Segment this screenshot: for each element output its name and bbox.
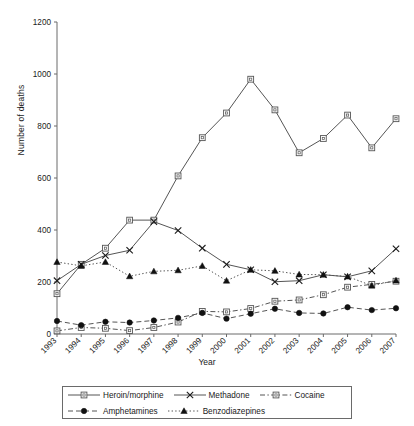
data-point-marker (199, 263, 205, 269)
data-point-marker (102, 259, 108, 265)
chart-legend: Heroin/morphineMethadoneCocaine Amphetam… (62, 386, 352, 419)
series-line (57, 222, 396, 282)
x-tick-label: 1993 (39, 336, 59, 356)
data-point-marker (296, 297, 302, 303)
legend-row-1: Heroin/morphineMethadoneCocaine (63, 387, 351, 403)
x-tick-label: 2003 (281, 336, 301, 356)
data-point-marker (273, 392, 279, 398)
data-point-marker (224, 110, 230, 116)
x-tick-label: 2006 (354, 336, 374, 356)
data-point-marker (272, 298, 278, 304)
x-axis-title-text: Year (198, 357, 215, 367)
data-point-marker (127, 328, 133, 334)
data-point-marker (175, 315, 180, 320)
data-point-marker (127, 320, 132, 325)
legend-swatch (173, 389, 207, 401)
x-tick-label: 1997 (136, 336, 156, 356)
data-point-marker (81, 408, 86, 413)
legend-swatch (167, 405, 201, 417)
data-point-marker (272, 107, 278, 113)
data-point-marker (200, 310, 205, 315)
data-point-marker (54, 259, 60, 265)
data-point-marker (272, 306, 277, 311)
data-point-marker (248, 76, 254, 82)
data-point-marker (103, 325, 109, 331)
x-tick-label: 1994 (63, 336, 83, 356)
y-tick-label: 1000 (33, 70, 52, 79)
legend-swatch (67, 405, 101, 417)
x-tick-label: 2004 (306, 336, 326, 356)
x-tick-label: 2000 (209, 336, 229, 356)
series-amphetamines (54, 305, 398, 328)
data-point-marker (54, 291, 60, 297)
data-point-marker (345, 305, 350, 310)
data-point-marker (369, 145, 375, 151)
data-point-marker (248, 311, 253, 316)
y-tick-label: 600 (37, 174, 51, 183)
data-point-marker (175, 173, 181, 179)
data-point-marker (345, 284, 351, 290)
data-point-marker (103, 319, 108, 324)
data-point-marker (103, 245, 109, 251)
legend-item-label: Benzodiazepines (203, 407, 265, 416)
data-point-marker (393, 306, 398, 311)
legend-item-label: Cocaine (295, 391, 325, 400)
data-point-marker (79, 322, 84, 327)
data-point-marker (127, 217, 133, 223)
data-point-marker (224, 309, 230, 315)
data-point-marker (345, 112, 351, 118)
data-point-marker (151, 318, 156, 323)
data-point-marker (151, 268, 157, 274)
data-point-marker (393, 116, 399, 122)
legend-row-2: AmphetaminesBenzodiazepines (63, 403, 351, 419)
legend-item-benzodiazepines[interactable]: Benzodiazepines (167, 405, 265, 417)
legend-swatch (259, 389, 293, 401)
x-tick-label: 2002 (257, 336, 277, 356)
x-axis-title: Year (0, 357, 414, 367)
x-tick-label: 1995 (88, 336, 108, 356)
data-point-marker (199, 135, 205, 141)
series-benzodiazepines (54, 259, 399, 288)
data-point-marker (223, 278, 229, 284)
data-point-marker (151, 325, 157, 331)
data-point-marker (54, 328, 60, 334)
x-tick-label: 2001 (233, 336, 253, 356)
data-point-marker (321, 311, 326, 316)
data-point-marker (175, 267, 181, 273)
x-tick-label: 1996 (112, 336, 132, 356)
y-tick-label: 800 (37, 122, 51, 131)
data-point-marker (224, 316, 229, 321)
data-point-marker (320, 292, 326, 298)
legend-item-heroin-morphine[interactable]: Heroin/morphine (67, 389, 164, 401)
legend-item-amphetamines[interactable]: Amphetamines (67, 405, 158, 417)
y-tick-label: 200 (37, 278, 51, 287)
x-tick-label: 2007 (378, 336, 398, 356)
data-point-marker (296, 150, 302, 156)
chart-figure: Number of deaths 02004006008001000120019… (0, 0, 414, 426)
legend-item-label: Methadone (209, 391, 250, 400)
y-tick-label: 1200 (33, 18, 52, 27)
x-tick-label: 1999 (184, 336, 204, 356)
legend-item-methadone[interactable]: Methadone (173, 389, 250, 401)
data-point-marker (320, 136, 326, 142)
data-point-marker (54, 318, 59, 323)
data-point-marker (296, 310, 301, 315)
x-tick-label: 1998 (160, 336, 180, 356)
data-point-marker (369, 307, 374, 312)
legend-item-cocaine[interactable]: Cocaine (259, 389, 325, 401)
data-point-marker (81, 392, 87, 398)
x-tick-label: 2005 (330, 336, 350, 356)
legend-item-label: Heroin/morphine (103, 391, 164, 400)
legend-item-label: Amphetamines (103, 407, 158, 416)
data-point-marker (248, 306, 254, 312)
legend-swatch (67, 389, 101, 401)
y-tick-label: 400 (37, 226, 51, 235)
